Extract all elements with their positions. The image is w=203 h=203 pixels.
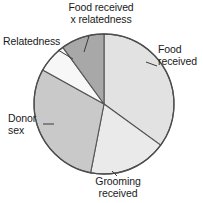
pie-label-grooming-received-line2: received xyxy=(95,188,140,200)
pie-label-food-received-line2: received xyxy=(158,56,197,68)
pie-label-relatedness: Relatedness xyxy=(3,36,60,48)
pie-label-food-received-line1: Food xyxy=(158,43,182,55)
pie-label-grooming-received: Grooming received xyxy=(95,176,140,199)
pie-slices xyxy=(34,34,174,174)
pie-label-donor-sex-line2: sex xyxy=(8,125,36,137)
pie-label-food-received-x-relatedness-line2: x relatedness xyxy=(68,14,133,26)
pie-chart-figure: Food received x relatedness Relatedness … xyxy=(0,0,203,203)
pie-label-grooming-received-line1: Grooming xyxy=(95,175,140,187)
pie-label-donor-sex: Donor sex xyxy=(8,113,36,136)
pie-label-food-received-x-relatedness-line1: Food received xyxy=(68,1,133,13)
pie-label-donor-sex-line1: Donor xyxy=(8,112,36,124)
pie-label-food-received: Food received xyxy=(158,44,197,67)
pie-chart-svg xyxy=(0,0,203,203)
pie-label-food-received-x-relatedness: Food received x relatedness xyxy=(68,2,133,25)
pie-label-relatedness-text: Relatedness xyxy=(3,35,60,47)
